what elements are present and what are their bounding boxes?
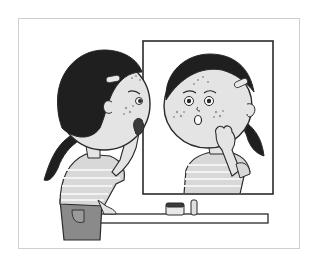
- scene: [0, 0, 317, 264]
- cream-jar: [166, 203, 184, 215]
- tube: [191, 200, 197, 215]
- shelf: [100, 214, 268, 223]
- illustration: Girl looking in a mirror at acne on her …: [0, 0, 317, 264]
- mirror: [143, 41, 273, 194]
